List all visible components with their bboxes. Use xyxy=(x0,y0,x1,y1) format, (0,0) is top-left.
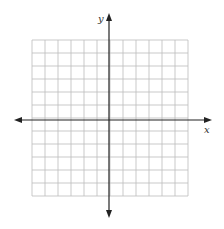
axes xyxy=(14,13,212,218)
y-axis-label: y xyxy=(97,13,104,24)
grid xyxy=(32,40,188,196)
y-axis-bottom-arrow-icon xyxy=(106,210,112,218)
y-axis-top-arrow-icon xyxy=(106,13,112,21)
x-axis-left-arrow-icon xyxy=(14,117,22,123)
coordinate-plane: x y xyxy=(0,0,224,229)
x-axis-label: x xyxy=(204,124,210,135)
x-axis-right-arrow-icon xyxy=(204,117,212,123)
